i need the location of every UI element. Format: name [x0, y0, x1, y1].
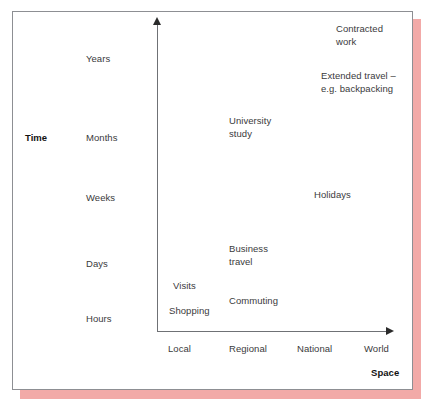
y-axis-tick-days: Days [86, 258, 108, 271]
activity-label-visits: Visits [173, 280, 196, 293]
figure-card: Time Years Months Weeks Days Hours Local… [12, 11, 413, 390]
x-axis-tick-local: Local [168, 343, 191, 356]
y-axis-tick-hours: Hours [86, 313, 112, 326]
activity-label-shopping: Shopping [169, 305, 210, 318]
x-axis-line [157, 331, 388, 332]
x-axis-tick-national: National [297, 343, 332, 356]
axes-layer [13, 12, 414, 391]
activity-label-commuting: Commuting [229, 295, 278, 308]
y-axis-arrowhead-icon [153, 17, 161, 25]
y-axis-line [157, 24, 158, 331]
activity-label-business-travel: Business travel [229, 243, 268, 268]
activity-label-holidays: Holidays [314, 189, 351, 202]
activity-label-extended-travel: Extended travel – e.g. backpacking [321, 70, 396, 95]
x-axis-tick-regional: Regional [229, 343, 267, 356]
activity-label-university-study: University study [229, 115, 271, 140]
x-axis-title: Space [371, 367, 399, 380]
x-axis-arrowhead-icon [386, 327, 394, 335]
activity-label-contracted-work: Contracted work [336, 23, 383, 48]
y-axis-title: Time [25, 132, 47, 145]
y-axis-tick-months: Months [86, 132, 117, 145]
figure-root: Time Years Months Weeks Days Hours Local… [0, 0, 429, 411]
y-axis-tick-weeks: Weeks [86, 192, 115, 205]
y-axis-tick-years: Years [86, 53, 110, 66]
x-axis-tick-world: World [364, 343, 389, 356]
